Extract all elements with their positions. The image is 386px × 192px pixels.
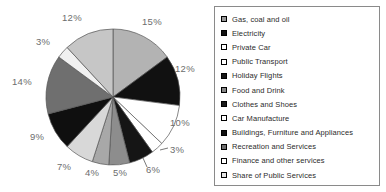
legend-item: Car Manufacture (221, 111, 379, 125)
pie-slice-percentage-label: 6% (146, 164, 160, 175)
pie-slice-percentage-label: 3% (36, 36, 50, 47)
legend-item: Share of Public Services (221, 168, 379, 182)
pie-slice-percentage-label: 15% (142, 16, 162, 27)
legend-item-label: Gas, coal and oil (232, 15, 290, 24)
legend-item: Buildings, Furniture and Appliances (221, 126, 379, 140)
legend-swatch-icon (221, 115, 227, 121)
legend-item: Private Car (221, 40, 379, 54)
legend-swatch-icon (221, 44, 227, 50)
legend-swatch-icon (221, 172, 227, 178)
pie-slice-percentage-label: 3% (170, 144, 184, 155)
legend-swatch-icon (221, 59, 227, 65)
pie-slice-percentage-label: 12% (62, 12, 82, 23)
legend-item-label: Public Transport (232, 57, 288, 66)
chart-legend: Gas, coal and oilElectricityPrivate CarP… (214, 6, 380, 186)
legend-item-label: Food and Drink (232, 86, 285, 95)
legend-item: Holiday Flights (221, 69, 379, 83)
legend-item: Public Transport (221, 55, 379, 69)
legend-swatch-icon (221, 130, 227, 136)
pie-slice-percentage-label: 12% (175, 63, 195, 74)
pie-slice-percentage-label: 5% (113, 167, 127, 178)
legend-item: Clothes and Shoes (221, 97, 379, 111)
legend-item: Finance and other services (221, 154, 379, 168)
legend-item-label: Share of Public Services (232, 171, 316, 180)
pie-slice-percentage-label: 10% (170, 117, 190, 128)
legend-item-label: Private Car (232, 43, 271, 52)
legend-item: Recreation and Services (221, 140, 379, 154)
legend-item: Electricity (221, 26, 379, 40)
legend-swatch-icon (221, 73, 227, 79)
legend-item-label: Buildings, Furniture and Appliances (232, 128, 353, 137)
pie-chart-plot-area: 15%12%10%3%6%5%4%7%9%14%3%12% (0, 0, 212, 192)
legend-swatch-icon (221, 158, 227, 164)
legend-swatch-icon (221, 30, 227, 36)
legend-swatch-icon (221, 87, 227, 93)
pie-slice-percentage-label: 7% (57, 161, 71, 172)
legend-item-label: Car Manufacture (232, 114, 289, 123)
legend-item-label: Electricity (232, 29, 265, 38)
legend-item-label: Recreation and Services (232, 142, 316, 151)
legend-item: Gas, coal and oil (221, 12, 379, 26)
pie-slice-group (46, 29, 180, 165)
legend-item-label: Finance and other services (232, 156, 325, 165)
legend-item-label: Holiday Flights (232, 71, 283, 80)
legend-swatch-icon (221, 16, 227, 22)
pie-chart-figure: 15%12%10%3%6%5%4%7%9%14%3%12% Gas, coal … (0, 0, 386, 192)
pie-chart-svg (0, 0, 212, 192)
legend-item: Food and Drink (221, 83, 379, 97)
legend-swatch-icon (221, 144, 227, 150)
legend-item-label: Clothes and Shoes (232, 100, 297, 109)
pie-slice-percentage-label: 14% (12, 76, 32, 87)
pie-slice-percentage-label: 4% (85, 167, 99, 178)
leader-line (160, 148, 168, 150)
legend-swatch-icon (221, 101, 227, 107)
pie-slice-percentage-label: 9% (30, 131, 44, 142)
